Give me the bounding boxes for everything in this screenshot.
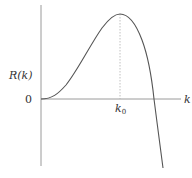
r-of-k-curve (41, 14, 163, 168)
x-axis-label: k (184, 93, 191, 106)
origin-label: 0 (25, 93, 32, 106)
peak-label-subscript: 0 (122, 108, 126, 116)
y-axis-label: R(k) (8, 69, 33, 82)
peak-label: k0 (115, 102, 126, 116)
figure-canvas: 0 R(k) k k0 (0, 0, 192, 178)
